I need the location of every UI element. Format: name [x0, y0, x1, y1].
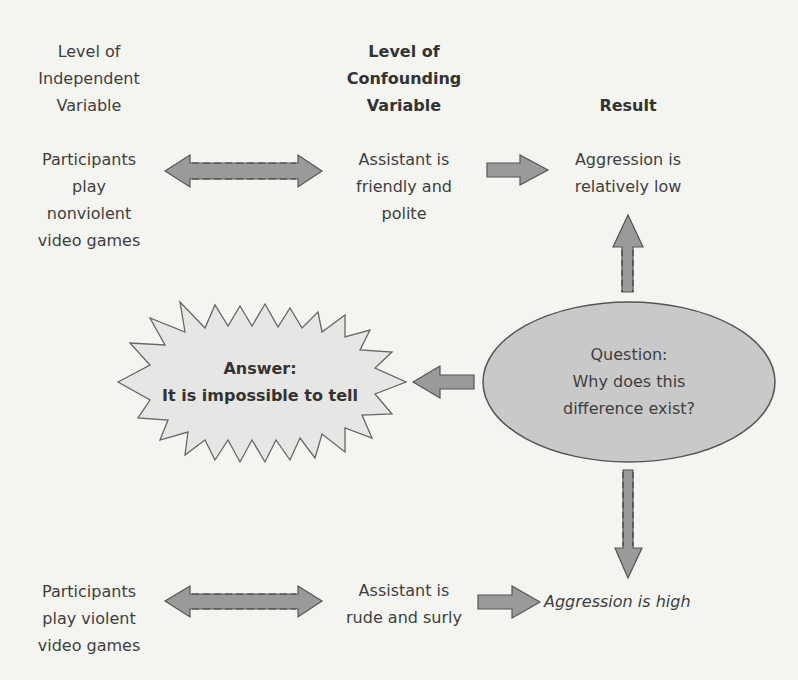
top-confounding-text: Assistant is friendly and polite [329, 146, 479, 227]
heading-confounding-variable: Level of Confounding Variable [329, 38, 479, 119]
bottom-independent-text: Participants play violent video games [9, 578, 169, 659]
heading-independent-variable: Level of Independent Variable [14, 38, 164, 119]
top-result-text: Aggression is relatively low [548, 146, 708, 200]
arrow-left [413, 366, 474, 398]
question-text: Question: Why does this difference exist… [539, 341, 719, 422]
top-independent-text: Participants play nonviolent video games [9, 146, 169, 254]
double-arrow-top [165, 155, 322, 187]
bottom-result-text: Aggression is high [544, 588, 724, 615]
arrow-down [615, 470, 642, 578]
arrow-right-top [487, 155, 548, 185]
bottom-confounding-text: Assistant is rude and surly [329, 577, 479, 631]
heading-result: Result [553, 92, 703, 119]
arrow-right-bottom [478, 586, 540, 618]
double-arrow-bottom [165, 586, 322, 617]
arrow-up [613, 215, 643, 292]
answer-text: It is impossible to tell [140, 382, 380, 409]
answer-label: Answer: [140, 355, 380, 382]
